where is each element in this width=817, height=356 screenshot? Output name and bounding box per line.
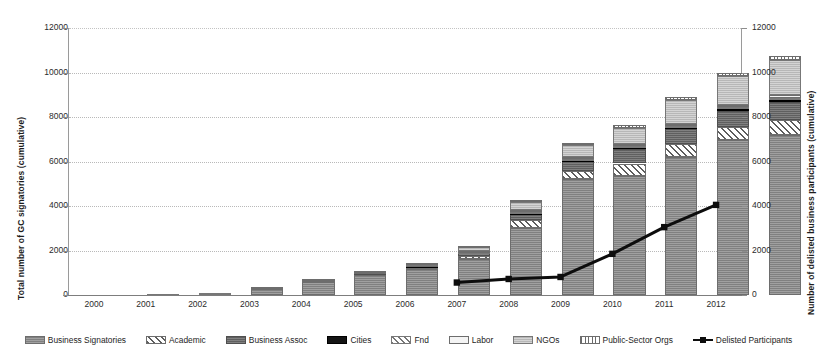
bar-segment-labor[interactable] (510, 210, 542, 212)
bar-segment-ngos[interactable] (769, 60, 801, 95)
legend-swatch-bizsig (25, 336, 45, 344)
legend-swatch-cities (327, 336, 347, 344)
bar-segment-public[interactable] (354, 271, 386, 273)
bar-column[interactable] (458, 28, 490, 295)
bar-segment-bizassoc[interactable] (665, 129, 697, 144)
bar-segment-bizassoc[interactable] (147, 294, 179, 296)
bar-segment-academic[interactable] (665, 144, 697, 157)
bar-segment-cities[interactable] (769, 100, 801, 102)
legend-item-public[interactable]: Public-Sector Orgs (580, 336, 673, 344)
bar-segment-ngos[interactable] (199, 293, 231, 295)
legend-item-bizassoc[interactable]: Business Assoc (226, 336, 308, 344)
bar-column[interactable] (251, 28, 283, 295)
y-tick-label-right: 12000 (752, 23, 776, 32)
legend-label-delisted: Delisted Participants (716, 336, 792, 344)
bar-column[interactable] (562, 28, 594, 295)
bar-segment-academic[interactable] (510, 220, 542, 228)
x-tick-label: 2006 (379, 300, 431, 309)
bar-segment-cities[interactable] (147, 294, 179, 296)
bar-segment-public[interactable] (613, 125, 645, 127)
bar-segment-bizsig[interactable] (769, 135, 801, 295)
bar-segment-bizsig[interactable] (613, 176, 645, 295)
bar-segment-fnd[interactable] (613, 146, 645, 148)
bar-column[interactable] (510, 28, 542, 295)
bar-segment-public[interactable] (458, 246, 490, 248)
bar-segment-academic[interactable] (717, 127, 749, 140)
x-tick-label: 2005 (327, 300, 379, 309)
bar-segment-bizsig[interactable] (510, 228, 542, 295)
x-tick-label: 2003 (224, 300, 276, 309)
legend-item-delisted[interactable]: Delisted Participants (693, 336, 792, 344)
bar-segment-ngos[interactable] (147, 294, 179, 296)
legend-swatch-labor (449, 336, 469, 344)
bar-segment-public[interactable] (769, 56, 801, 60)
bar-segment-bizsig[interactable] (147, 294, 179, 296)
stacked-bar-chart: Total number of GC signatories (cumulati… (0, 0, 817, 356)
bar-segment-academic[interactable] (147, 294, 179, 296)
legend-item-labor[interactable]: Labor (449, 336, 493, 344)
bar-segment-labor[interactable] (769, 95, 801, 97)
bar-segment-academic[interactable] (562, 171, 594, 179)
y-tick-label-right: 2000 (752, 246, 771, 255)
bar-segment-bizassoc[interactable] (613, 149, 645, 163)
bar-column[interactable] (665, 28, 697, 295)
bar-segment-bizassoc[interactable] (562, 161, 594, 171)
legend-item-ngos[interactable]: NGOs (513, 336, 559, 344)
bar-segment-ngos[interactable] (665, 100, 697, 123)
bar-segment-fnd[interactable] (147, 294, 179, 296)
bar-segment-ngos[interactable] (717, 76, 749, 104)
y-tick-mark-right (742, 251, 747, 252)
bar-segment-bizsig[interactable] (665, 157, 697, 295)
bar-segment-public[interactable] (665, 97, 697, 100)
bar-segment-bizsig[interactable] (717, 140, 749, 295)
bar-column[interactable] (147, 28, 179, 295)
plot-area (68, 28, 742, 295)
y-axis-title-right: Number of delisted business participants… (806, 91, 816, 315)
bar-column[interactable] (199, 28, 231, 295)
bar-segment-public[interactable] (251, 287, 283, 289)
legend-item-academic[interactable]: Academic (146, 336, 206, 344)
bar-segment-academic[interactable] (769, 120, 801, 135)
bar-segment-labor[interactable] (613, 144, 645, 146)
bar-segment-fnd[interactable] (769, 98, 801, 100)
x-tick-label: 2009 (535, 300, 587, 309)
legend-item-cities[interactable]: Cities (327, 336, 371, 344)
bar-segment-ngos[interactable] (613, 128, 645, 144)
bar-segment-public[interactable] (406, 263, 438, 265)
bar-segment-bizsig[interactable] (406, 269, 438, 295)
y-tick-mark-left (63, 206, 68, 207)
bar-segment-academic[interactable] (458, 256, 490, 259)
y-tick-label-left: 4000 (0, 201, 68, 210)
bar-segment-bizsig[interactable] (458, 259, 490, 295)
bar-segment-bizsig[interactable] (562, 179, 594, 295)
bar-segment-academic[interactable] (613, 164, 645, 176)
bar-segment-bizassoc[interactable] (510, 214, 542, 221)
legend-item-fnd[interactable]: Fnd (391, 336, 428, 344)
bar-column[interactable] (302, 28, 334, 295)
legend-label-bizassoc: Business Assoc (249, 336, 308, 344)
bar-column[interactable] (354, 28, 386, 295)
bar-column[interactable] (613, 28, 645, 295)
bar-segment-bizassoc[interactable] (769, 102, 801, 120)
bar-segment-bizassoc[interactable] (717, 111, 749, 127)
y-tick-label-right: 4000 (752, 201, 771, 210)
bar-segment-labor[interactable] (458, 251, 490, 253)
bar-segment-labor[interactable] (665, 124, 697, 126)
bar-segment-public[interactable] (510, 200, 542, 202)
legend-item-bizsig[interactable]: Business Signatories (25, 336, 126, 344)
bar-segment-bizsig[interactable] (354, 274, 386, 295)
bar-segment-public[interactable] (562, 143, 594, 145)
bar-segment-ngos[interactable] (510, 202, 542, 210)
bar-segment-fnd[interactable] (717, 107, 749, 109)
bar-segment-cities[interactable] (717, 109, 749, 111)
bar-segment-labor[interactable] (562, 157, 594, 159)
bar-segment-fnd[interactable] (665, 126, 697, 128)
y-tick-label-left: 6000 (0, 157, 68, 166)
bar-segment-labor[interactable] (147, 294, 179, 296)
bar-segment-bizsig[interactable] (302, 281, 334, 295)
bar-segment-labor[interactable] (717, 105, 749, 107)
bar-column[interactable] (406, 28, 438, 295)
y-tick-mark-right (742, 117, 747, 118)
bar-segment-public[interactable] (302, 279, 334, 281)
bar-segment-ngos[interactable] (562, 145, 594, 157)
